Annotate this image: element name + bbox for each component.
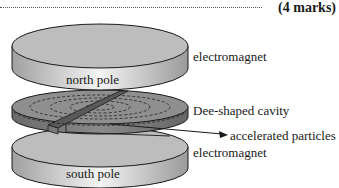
dee-cavity-label: Dee-shaped cavity [193, 103, 289, 119]
bottom-electromagnet-label: electromagnet [193, 145, 267, 161]
accelerated-particles-label: accelerated particles [230, 128, 336, 144]
top-electromagnet-label: electromagnet [193, 49, 267, 65]
south-pole-label: south pole [66, 166, 120, 182]
cyclotron-diagram [0, 0, 339, 188]
north-pole-label: north pole [66, 72, 119, 88]
